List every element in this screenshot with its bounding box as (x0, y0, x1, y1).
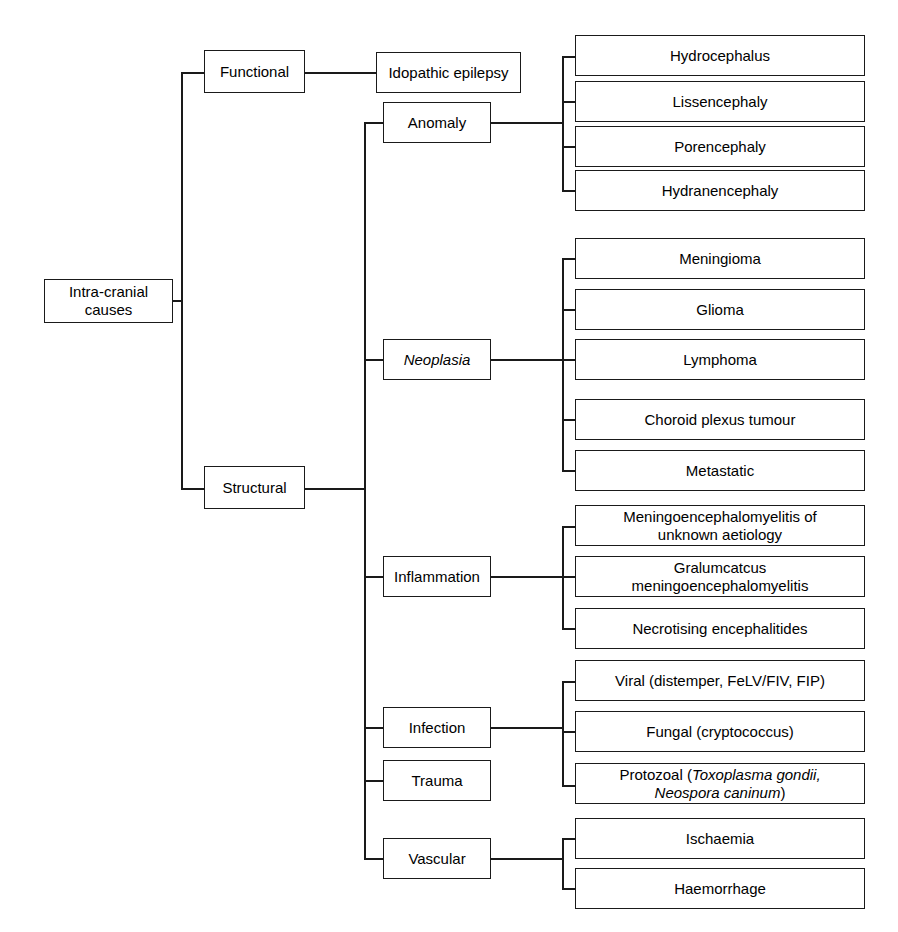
connector-bus-structural (181, 488, 204, 490)
leaf-lymphoma[interactable]: Lymphoma (575, 339, 865, 380)
node-inflammation-label: Inflammation (388, 568, 486, 586)
leaf-haemorrhage-label: Haemorrhage (580, 880, 860, 898)
connector-infection-leaf-2 (562, 785, 576, 787)
node-root-label: Intra-cranial causes (49, 283, 168, 318)
leaf-mue-label: Meningoencephalomyelitis of unknown aeti… (580, 508, 860, 543)
connector-neoplasia-leaf-2 (562, 359, 576, 361)
leaf-protozoal-prefix: Protozoal ( (619, 766, 692, 783)
connector-bus-functional (181, 72, 204, 74)
connector-anomaly-bus (562, 56, 564, 190)
node-root[interactable]: Intra-cranial causes (44, 279, 173, 323)
leaf-hydrocephalus-label: Hydrocephalus (580, 47, 860, 65)
leaf-viral-label: Viral (distemper, FeLV/FIV, FIP) (580, 672, 860, 690)
leaf-lissencephaly[interactable]: Lissencephaly (575, 81, 865, 122)
connector-vascular-bus (562, 838, 564, 888)
leaf-choroid-plexus-tumour-label: Choroid plexus tumour (580, 411, 860, 429)
leaf-lymphoma-label: Lymphoma (580, 351, 860, 369)
node-vascular[interactable]: Vascular (383, 838, 491, 879)
connector-vascular-leaf-1 (562, 888, 576, 890)
connector-anomaly-leaf-1 (562, 101, 576, 103)
leaf-viral[interactable]: Viral (distemper, FeLV/FIV, FIP) (575, 660, 865, 701)
leaf-hydrocephalus[interactable]: Hydrocephalus (575, 35, 865, 76)
leaf-necrotising-encephalitides-label: Necrotising encephalitides (580, 620, 860, 638)
connector-vascular-leaf-0 (562, 838, 576, 840)
node-anomaly[interactable]: Anomaly (383, 102, 491, 143)
leaf-hydranencephaly[interactable]: Hydranencephaly (575, 170, 865, 211)
leaf-glioma-label: Glioma (580, 301, 860, 319)
leaf-protozoal-suffix: ) (780, 784, 785, 801)
node-infection-label: Infection (388, 719, 486, 737)
leaf-metastatic[interactable]: Metastatic (575, 450, 865, 491)
leaf-mue[interactable]: Meningoencephalomyelitis of unknown aeti… (575, 505, 865, 546)
node-neoplasia-label: Neoplasia (388, 351, 486, 369)
node-idopathic-epilepsy-label: Idopathic epilepsy (381, 64, 516, 82)
connector-bus-trauma (364, 780, 384, 782)
node-trauma[interactable]: Trauma (383, 760, 491, 801)
connector-bus-infection (364, 727, 384, 729)
connector-neoplasia-stub (491, 359, 563, 361)
connector-bus-vascular (364, 858, 384, 860)
leaf-gralumcatcus-meningoencephalomyelitis[interactable]: Gralumcatcus meningoencephalomyelitis (575, 556, 865, 597)
connector-infection-leaf-1 (562, 731, 576, 733)
connector-functional-idopathic (305, 72, 377, 74)
node-inflammation[interactable]: Inflammation (383, 556, 491, 597)
leaf-fungal[interactable]: Fungal (cryptococcus) (575, 711, 865, 752)
node-trauma-label: Trauma (388, 772, 486, 790)
connector-infection-bus (562, 681, 564, 785)
leaf-glioma[interactable]: Glioma (575, 289, 865, 330)
connector-neoplasia-leaf-1 (562, 309, 576, 311)
connector-bus-anomaly (364, 122, 384, 124)
leaf-meningioma-label: Meningioma (580, 250, 860, 268)
leaf-hydranencephaly-label: Hydranencephaly (580, 182, 860, 200)
leaf-fungal-label: Fungal (cryptococcus) (580, 723, 860, 741)
connector-infection-stub (491, 727, 563, 729)
node-functional[interactable]: Functional (204, 50, 305, 93)
connector-inflammation-stub (491, 576, 563, 578)
leaf-protozoal-label: Protozoal (Toxoplasma gondii, Neospora c… (580, 766, 860, 801)
connector-vascular-stub (491, 858, 563, 860)
node-neoplasia[interactable]: Neoplasia (383, 339, 491, 380)
connector-inflammation-leaf-1 (562, 576, 576, 578)
node-structural[interactable]: Structural (204, 466, 305, 509)
leaf-choroid-plexus-tumour[interactable]: Choroid plexus tumour (575, 399, 865, 440)
node-infection[interactable]: Infection (383, 707, 491, 748)
leaf-gralumcatcus-label: Gralumcatcus meningoencephalomyelitis (580, 559, 860, 594)
leaf-protozoal[interactable]: Protozoal (Toxoplasma gondii, Neospora c… (575, 763, 865, 804)
node-structural-label: Structural (209, 479, 300, 497)
connector-anomaly-leaf-3 (562, 190, 576, 192)
connector-anomaly-leaf-0 (562, 56, 576, 58)
connector-infection-leaf-0 (562, 681, 576, 683)
connector-structural-bus (364, 122, 366, 859)
node-vascular-label: Vascular (388, 850, 486, 868)
connector-bus-inflammation (364, 576, 384, 578)
connector-neoplasia-bus (562, 258, 564, 470)
leaf-ischaemia-label: Ischaemia (580, 830, 860, 848)
connector-neoplasia-leaf-0 (562, 258, 576, 260)
leaf-porencephaly-label: Porencephaly (580, 138, 860, 156)
connector-bus-neoplasia (364, 359, 384, 361)
leaf-meningioma[interactable]: Meningioma (575, 238, 865, 279)
connector-anomaly-stub (491, 122, 563, 124)
leaf-lissencephaly-label: Lissencephaly (580, 93, 860, 111)
connector-neoplasia-leaf-3 (562, 419, 576, 421)
connector-neoplasia-leaf-4 (562, 470, 576, 472)
connector-main-bus (181, 72, 183, 489)
node-functional-label: Functional (209, 63, 300, 81)
leaf-necrotising-encephalitides[interactable]: Necrotising encephalitides (575, 608, 865, 649)
connector-structural-stub (305, 488, 365, 490)
connector-inflammation-leaf-0 (562, 526, 576, 528)
leaf-haemorrhage[interactable]: Haemorrhage (575, 868, 865, 909)
connector-inflammation-leaf-2 (562, 628, 576, 630)
leaf-porencephaly[interactable]: Porencephaly (575, 126, 865, 167)
diagram-canvas: Intra-cranial causes Functional Structur… (0, 0, 898, 932)
connector-anomaly-leaf-2 (562, 146, 576, 148)
leaf-metastatic-label: Metastatic (580, 462, 860, 480)
leaf-ischaemia[interactable]: Ischaemia (575, 818, 865, 859)
node-idopathic-epilepsy[interactable]: Idopathic epilepsy (376, 52, 521, 93)
node-anomaly-label: Anomaly (388, 114, 486, 132)
